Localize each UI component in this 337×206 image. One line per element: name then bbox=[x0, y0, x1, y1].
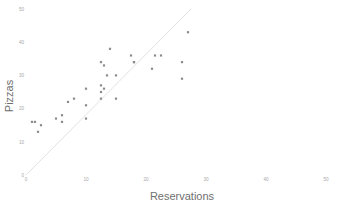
data-point bbox=[34, 121, 36, 123]
y-tick-label: 40 bbox=[19, 40, 25, 45]
data-point bbox=[103, 64, 105, 66]
x-tick-label: 0 bbox=[25, 177, 28, 182]
data-point bbox=[106, 74, 108, 76]
data-point bbox=[37, 131, 39, 133]
y-tick-label: 20 bbox=[19, 106, 25, 111]
data-point bbox=[187, 31, 189, 33]
data-point bbox=[85, 88, 87, 90]
data-point bbox=[160, 54, 162, 56]
data-point bbox=[85, 104, 87, 106]
y-tick-label: 10 bbox=[19, 140, 25, 145]
scatter-plot-figure: 01020304050 01020304050 Reservations Piz… bbox=[0, 0, 337, 206]
y-axis-tick-labels: 01020304050 bbox=[19, 7, 25, 178]
data-point bbox=[31, 121, 33, 123]
data-point bbox=[55, 117, 57, 119]
x-axis-tick-labels: 01020304050 bbox=[25, 177, 329, 182]
chart-canvas: 01020304050 01020304050 Reservations Piz… bbox=[0, 0, 337, 206]
data-point bbox=[115, 98, 117, 100]
x-tick-label: 10 bbox=[83, 177, 89, 182]
data-point bbox=[181, 78, 183, 80]
x-tick-label: 50 bbox=[323, 177, 329, 182]
x-tick-label: 30 bbox=[203, 177, 209, 182]
data-point bbox=[133, 61, 135, 63]
data-point bbox=[100, 61, 102, 63]
data-point bbox=[100, 91, 102, 93]
data-point bbox=[109, 48, 111, 50]
x-axis-title: Reservations bbox=[150, 190, 215, 202]
data-point bbox=[151, 68, 153, 70]
data-point bbox=[103, 88, 105, 90]
data-point bbox=[100, 84, 102, 86]
y-tick-label: 30 bbox=[19, 73, 25, 78]
x-tick-label: 20 bbox=[143, 177, 149, 182]
data-point bbox=[40, 124, 42, 126]
regression-line bbox=[26, 9, 191, 175]
data-point bbox=[85, 117, 87, 119]
y-tick-label: 0 bbox=[21, 173, 24, 178]
data-point bbox=[73, 98, 75, 100]
data-point bbox=[130, 54, 132, 56]
fit-line-segment bbox=[26, 9, 191, 175]
data-point bbox=[181, 61, 183, 63]
data-point bbox=[100, 98, 102, 100]
data-point bbox=[61, 121, 63, 123]
data-point bbox=[61, 114, 63, 116]
data-point bbox=[115, 74, 117, 76]
y-tick-label: 50 bbox=[19, 7, 25, 12]
data-point bbox=[154, 54, 156, 56]
data-points-group bbox=[31, 31, 189, 133]
data-point bbox=[67, 101, 69, 103]
y-axis-title: Pizzas bbox=[3, 79, 15, 112]
x-tick-label: 40 bbox=[263, 177, 269, 182]
